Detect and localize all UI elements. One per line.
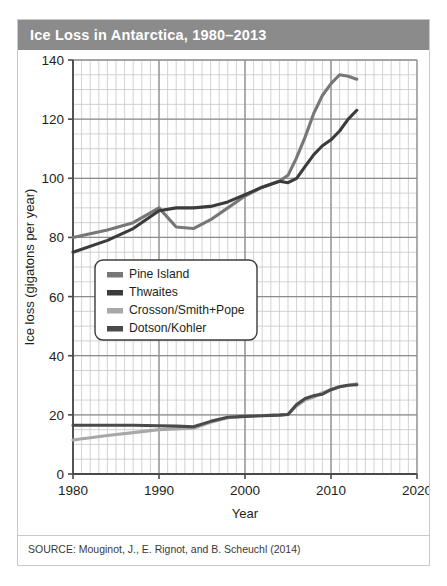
legend-label: Pine Island (129, 267, 189, 281)
legend-swatch (107, 308, 123, 314)
x-axis-title: Year (232, 506, 259, 521)
y-tick-label: 0 (56, 467, 64, 482)
x-tick-label: 1990 (144, 483, 174, 498)
legend-swatch (107, 290, 123, 296)
chart-figure: Ice Loss in Antarctica, 1980–2013 020406… (17, 19, 430, 566)
y-tick-label: 40 (49, 349, 64, 364)
y-axis-title: Ice loss (gigatons per year) (22, 189, 37, 346)
y-tick-label: 60 (49, 290, 64, 305)
legend-label: Dotson/Kohler (129, 321, 206, 335)
legend-swatch (107, 326, 123, 332)
legend-swatch (107, 272, 123, 278)
line-chart-svg: 02040608010012014019801990200020102020Ye… (18, 50, 429, 536)
x-tick-label: 2020 (402, 483, 429, 498)
y-tick-label: 80 (49, 230, 64, 245)
x-tick-label: 2000 (230, 483, 260, 498)
chart-legend: Pine IslandThwaitesCrosson/Smith+PopeDot… (95, 260, 257, 340)
y-tick-label: 20 (49, 408, 64, 423)
y-tick-label: 140 (41, 53, 64, 68)
plot-area-container: 02040608010012014019801990200020102020Ye… (18, 50, 429, 535)
chart-title-bar: Ice Loss in Antarctica, 1980–2013 (18, 20, 429, 50)
legend-label: Thwaites (129, 285, 178, 299)
page-title: Ice Loss in Antarctica, 1980–2013 (30, 27, 267, 43)
source-note: SOURCE: Mouginot, J., E. Rignot, and B. … (18, 535, 429, 565)
y-tick-label: 120 (41, 112, 64, 127)
legend-label: Crosson/Smith+Pope (129, 303, 245, 317)
y-tick-label: 100 (41, 171, 64, 186)
x-tick-label: 2010 (316, 483, 346, 498)
x-tick-label: 1980 (58, 483, 88, 498)
